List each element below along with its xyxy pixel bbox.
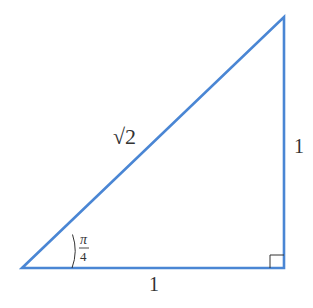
hypotenuse-label: √2	[113, 124, 136, 149]
right-angle-marker	[270, 255, 284, 268]
svg-text:4: 4	[80, 249, 87, 264]
angle-arc	[72, 235, 75, 269]
svg-text:π: π	[80, 232, 88, 247]
horizontal-side-label: 1	[149, 273, 159, 295]
vertical-side-label: 1	[294, 135, 304, 157]
triangle-diagram: √2 1 1 π 4	[0, 0, 313, 308]
svg-text:√2: √2	[113, 124, 136, 149]
triangle	[22, 17, 284, 268]
angle-label: π 4	[79, 232, 89, 264]
